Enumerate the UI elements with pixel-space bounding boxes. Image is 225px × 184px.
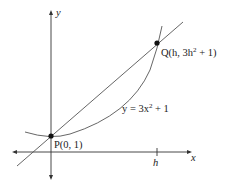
y-axis-label: y — [55, 7, 61, 18]
point-q-label: Q(h, 3h2 + 1) — [161, 46, 217, 59]
y-axis-up-arrow-icon — [49, 10, 53, 15]
point-q — [154, 40, 159, 45]
tick-h-label: h — [153, 157, 158, 168]
curve-label: y = 3x2 + 1 — [122, 102, 169, 114]
point-p-label: P(0, 1) — [54, 139, 83, 151]
y-axis — [49, 10, 53, 180]
x-axis — [12, 150, 192, 154]
secant-diagram: y x h P(0, 1) y = 3x2 + 1 Q(h, 3h2 + 1) — [0, 0, 225, 184]
parabola-curve — [25, 26, 162, 137]
point-p — [48, 133, 53, 138]
x-axis-label: x — [190, 152, 196, 163]
x-axis-left-arrow-icon — [12, 150, 17, 154]
y-axis-down-arrow-icon — [49, 175, 53, 180]
